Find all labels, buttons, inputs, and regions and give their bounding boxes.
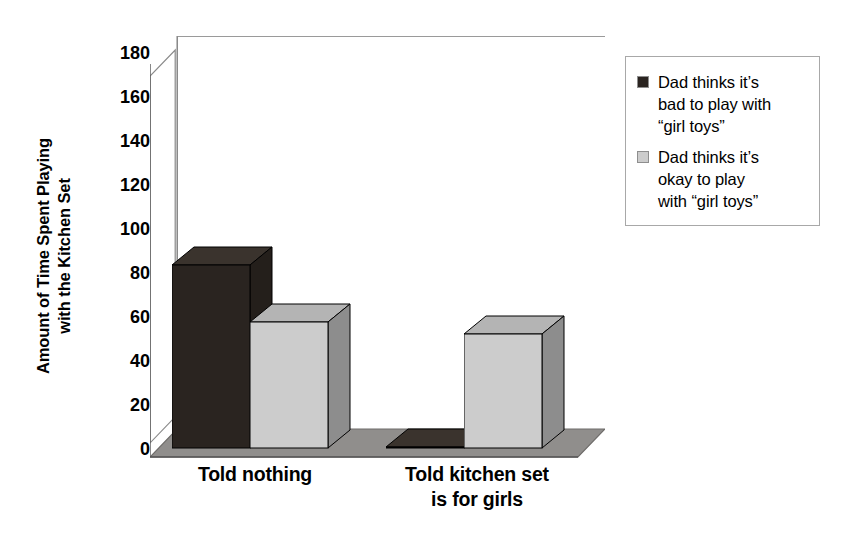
y-axis-tick-labels: 180 160 140 120 100 80 60 40 20 0 — [88, 0, 150, 543]
y-axis-title-line-1: Amount of Time Spent Playing — [34, 138, 52, 374]
y-tick-label-100: 100 — [88, 220, 150, 238]
y-tick-label-0: 0 — [88, 440, 150, 458]
x-label-told-nothing: Told nothing — [150, 462, 360, 487]
y-tick-label-60: 60 — [88, 308, 150, 326]
y-axis-title-line-2: with the Kitchen Set — [54, 66, 75, 446]
y-tick-label-120: 120 — [88, 176, 150, 194]
legend-label-dad-okay: Dad thinks it’s okay to play with “girl … — [658, 146, 759, 212]
legend-label-dad-bad: Dad thinks it’s bad to play with “girl t… — [658, 71, 771, 137]
y-tick-label-80: 80 — [88, 264, 150, 282]
legend-swatch-light-icon — [637, 151, 649, 163]
legend-item-dad-bad: Dad thinks it’s bad to play with “girl t… — [637, 71, 771, 137]
x-axis-category-labels: Told nothing Told kitchen set is for gir… — [150, 462, 620, 542]
y-tick-label-160: 160 — [88, 88, 150, 106]
x-label-told-kitchen-set-line-1: Told kitchen set — [362, 462, 592, 487]
bar-chart-figure: Amount of Time Spent Playing with the Ki… — [0, 0, 863, 543]
y-tick-label-20: 20 — [88, 396, 150, 414]
bar-told-nothing-dad-okay — [250, 36, 328, 458]
y-tick-label-180: 180 — [88, 44, 150, 62]
bar-told-kitchen-set-dad-bad — [386, 36, 464, 458]
y-tick-label-40: 40 — [88, 352, 150, 370]
x-label-told-kitchen-set-line-2: is for girls — [362, 487, 592, 512]
bar-told-nothing-dad-bad — [172, 36, 250, 458]
y-axis-title: Amount of Time Spent Playing with the Ki… — [33, 66, 75, 446]
chart-legend: Dad thinks it’s bad to play with “girl t… — [625, 56, 820, 226]
bar-told-kitchen-set-dad-okay — [464, 36, 542, 458]
y-axis-title-container: Amount of Time Spent Playing with the Ki… — [14, 0, 88, 543]
y-tick-label-140: 140 — [88, 132, 150, 150]
legend-item-dad-okay: Dad thinks it’s okay to play with “girl … — [637, 146, 759, 212]
bar-series-group — [150, 36, 605, 458]
legend-swatch-dark-icon — [637, 76, 649, 88]
